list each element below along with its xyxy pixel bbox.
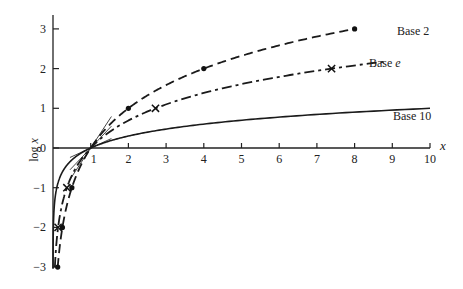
- y-tick-label: 2: [40, 62, 46, 76]
- dot-marker: [352, 26, 357, 31]
- x-tick-label: 4: [201, 152, 207, 166]
- y-tick-label: 1: [40, 101, 46, 115]
- label-base-2: Base 2: [397, 24, 429, 38]
- x-tick-label: 6: [276, 152, 282, 166]
- x-axis-label: x: [439, 138, 446, 153]
- x-tick-label: 8: [352, 152, 358, 166]
- x-tick-label: 5: [239, 152, 245, 166]
- x-tick-label: 2: [125, 152, 131, 166]
- label-base-e: Base e: [369, 56, 401, 70]
- x-tick-label: 3: [163, 152, 169, 166]
- dot-marker: [126, 106, 131, 111]
- x-marker: [152, 105, 159, 112]
- dot-marker: [55, 265, 60, 270]
- y-axis-label: log x: [27, 137, 41, 161]
- x-tick-label: 1: [91, 152, 97, 166]
- y-tick-label: 3: [40, 22, 46, 36]
- x-tick-label: 7: [314, 152, 320, 166]
- curve-base-e: [55, 62, 385, 267]
- x-tick-label: 9: [389, 152, 395, 166]
- dot-marker: [69, 185, 74, 190]
- y-tick-label: −2: [33, 220, 46, 234]
- y-tick-label: −1: [33, 181, 46, 195]
- label-base-10: Base 10: [393, 109, 431, 123]
- y-tick-label: −3: [33, 260, 46, 274]
- dot-marker: [201, 66, 206, 71]
- log-curves-chart: −3−2−1012312345678910 log x x Base 2 Bas…: [0, 0, 463, 289]
- x-tick-label: 10: [424, 152, 436, 166]
